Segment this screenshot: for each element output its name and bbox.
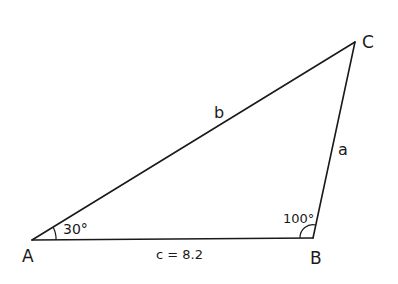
angle-label-a: 30° [63, 221, 88, 237]
side-label-a: a [338, 140, 348, 159]
side-c [32, 238, 313, 240]
vertex-label-c: C [362, 32, 374, 52]
angle-label-b: 100° [283, 211, 314, 226]
triangle-diagram: A B C a b c = 8.2 30° 100° [0, 0, 398, 284]
side-a [313, 42, 355, 238]
vertex-label-b: B [310, 248, 322, 268]
side-label-c: c = 8.2 [156, 247, 203, 262]
vertex-label-a: A [22, 246, 34, 266]
angle-arc-a [53, 227, 56, 240]
side-label-b: b [214, 103, 224, 122]
